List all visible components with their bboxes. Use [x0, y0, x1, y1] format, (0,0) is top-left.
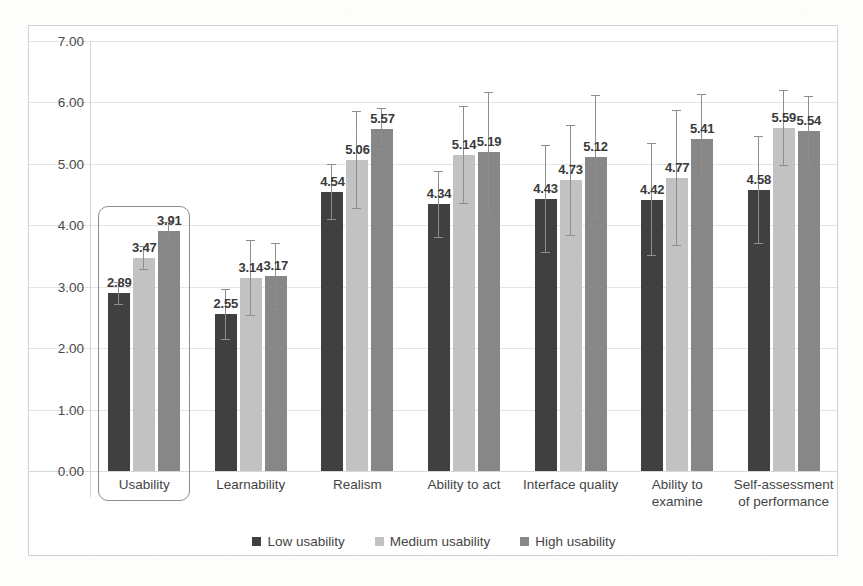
bar-column[interactable]: 4.73 [560, 41, 582, 471]
bar-column[interactable]: 3.17 [265, 41, 287, 471]
error-bar-cap-bottom [591, 217, 600, 218]
bar[interactable] [748, 190, 770, 471]
bar[interactable] [428, 204, 450, 471]
bar[interactable] [158, 231, 180, 471]
bar-value-label: 2.89 [107, 275, 132, 290]
bar[interactable] [108, 293, 130, 471]
error-bar-cap-bottom [271, 309, 280, 310]
error-bar-cap-bottom [221, 339, 230, 340]
bar-column[interactable]: 3.91 [158, 41, 180, 471]
chart-legend: Low usabilityMedium usabilityHigh usabil… [29, 534, 839, 549]
bar-column[interactable]: 5.54 [798, 41, 820, 471]
bar-value-label: 5.54 [796, 113, 821, 128]
bar-column[interactable]: 3.47 [133, 41, 155, 471]
x-axis-category-label: Self-assessment of performance [718, 476, 849, 510]
bar-value-label: 5.12 [583, 139, 608, 154]
bar-value-label: 2.55 [214, 296, 239, 311]
bar[interactable] [585, 157, 607, 472]
bar-column[interactable]: 4.58 [748, 41, 770, 471]
error-bar-cap-bottom [164, 238, 173, 239]
error-bar [758, 136, 759, 244]
error-bar-cap-bottom [377, 149, 386, 150]
bar-value-label: 5.41 [690, 121, 715, 136]
bar-column[interactable]: 5.06 [346, 41, 368, 471]
bar-column[interactable]: 4.42 [641, 41, 663, 471]
bar[interactable] [215, 314, 237, 471]
bar[interactable] [265, 276, 287, 471]
error-bar [595, 95, 596, 218]
error-bar-cap-top [754, 136, 763, 137]
bar-value-label: 3.17 [264, 258, 289, 273]
gridline [29, 471, 837, 472]
error-bar-cap-top [352, 111, 361, 112]
bar-column[interactable]: 5.12 [585, 41, 607, 471]
y-axis-tick-label: 7.00 [32, 34, 84, 49]
error-bar [275, 243, 276, 311]
legend-label: Low usability [267, 534, 344, 549]
bar-column[interactable]: 5.14 [453, 41, 475, 471]
error-bar [331, 164, 332, 221]
bar[interactable] [240, 278, 262, 471]
error-bar [651, 143, 652, 256]
error-bar-cap-bottom [647, 255, 656, 256]
error-bar-cap-top [327, 164, 336, 165]
bar-value-label: 4.73 [558, 162, 583, 177]
error-bar [545, 145, 546, 253]
bar[interactable] [371, 129, 393, 471]
bar[interactable] [346, 160, 368, 471]
bar[interactable] [798, 131, 820, 471]
bar-column[interactable]: 4.43 [535, 41, 557, 471]
bar[interactable] [641, 200, 663, 472]
bar-value-label: 5.14 [452, 137, 477, 152]
bar-value-label: 4.77 [665, 160, 690, 175]
error-bar-cap-bottom [566, 235, 575, 236]
error-bar [356, 111, 357, 209]
error-bar-cap-top [221, 289, 230, 290]
bar[interactable] [321, 192, 343, 471]
error-bar [570, 125, 571, 236]
error-bar-cap-top [484, 92, 493, 93]
y-axis-tick-labels: 0.001.002.003.004.005.006.007.00 [29, 41, 84, 471]
legend-item[interactable]: High usability [520, 534, 615, 549]
bar-value-label: 4.54 [320, 174, 345, 189]
bar-column[interactable]: 4.77 [666, 41, 688, 471]
bar-group: 4.545.065.57 [321, 41, 393, 471]
bar[interactable] [560, 180, 582, 471]
bar-value-label: 4.58 [746, 172, 771, 187]
chart-frame: 0.001.002.003.004.005.006.007.00 2.893.4… [28, 25, 838, 556]
error-bar-cap-bottom [114, 304, 123, 305]
bar-column[interactable]: 4.54 [321, 41, 343, 471]
x-axis-category-labels: UsabilityLearnabilityRealismAbility to a… [91, 476, 837, 531]
bar[interactable] [478, 152, 500, 471]
bar-column[interactable]: 5.19 [478, 41, 500, 471]
error-bar-cap-bottom [352, 208, 361, 209]
bar-group: 2.553.143.17 [215, 41, 287, 471]
bar-column[interactable]: 2.89 [108, 41, 130, 471]
bar-value-label: 4.34 [427, 186, 452, 201]
bar-column[interactable]: 5.41 [691, 41, 713, 471]
legend-item[interactable]: Low usability [252, 534, 344, 549]
error-bar [676, 110, 677, 245]
error-bar [783, 90, 784, 166]
bar-column[interactable]: 5.59 [773, 41, 795, 471]
bar[interactable] [535, 199, 557, 471]
error-bar-cap-bottom [541, 252, 550, 253]
bar[interactable] [666, 178, 688, 471]
bar[interactable] [773, 128, 795, 471]
legend-item[interactable]: Medium usability [375, 534, 491, 549]
bar-column[interactable]: 3.14 [240, 41, 262, 471]
y-axis-tick-label: 5.00 [32, 156, 84, 171]
bar-column[interactable]: 5.57 [371, 41, 393, 471]
y-axis-tick-label: 2.00 [32, 341, 84, 356]
error-bar-cap-top [434, 171, 443, 172]
error-bar-cap-top [647, 143, 656, 144]
error-bar-cap-bottom [327, 219, 336, 220]
bar-group: 2.893.473.91 [108, 41, 180, 471]
bar-value-label: 5.59 [771, 110, 796, 125]
bar[interactable] [691, 139, 713, 471]
bar-column[interactable]: 4.34 [428, 41, 450, 471]
bar[interactable] [133, 258, 155, 471]
bar-column[interactable]: 2.55 [215, 41, 237, 471]
error-bar-cap-bottom [697, 182, 706, 183]
y-axis-tick-label: 3.00 [32, 279, 84, 294]
